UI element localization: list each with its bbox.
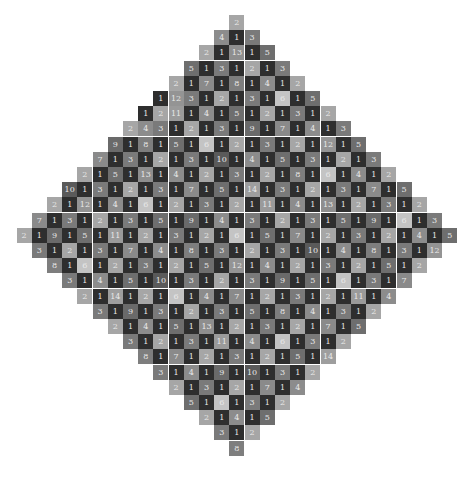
grid-cell[interactable]: 1	[245, 380, 260, 395]
grid-cell[interactable]: 1	[214, 76, 229, 91]
grid-cell[interactable]: 2	[138, 228, 153, 243]
grid-cell[interactable]: 4	[214, 213, 229, 228]
grid-cell[interactable]: 1	[321, 334, 336, 349]
grid-cell[interactable]: 1	[138, 304, 153, 319]
grid-cell[interactable]: 5	[123, 273, 138, 288]
grid-cell[interactable]: 2	[275, 395, 290, 410]
grid-cell[interactable]: 3	[397, 243, 412, 258]
grid-cell[interactable]: 13	[321, 197, 336, 212]
grid-cell[interactable]: 1	[275, 228, 290, 243]
grid-cell[interactable]: 1	[138, 273, 153, 288]
grid-cell[interactable]: 1	[77, 243, 92, 258]
grid-cell[interactable]: 1	[184, 349, 199, 364]
grid-cell[interactable]: 1	[245, 167, 260, 182]
grid-cell[interactable]: 3	[305, 213, 320, 228]
grid-cell[interactable]: 2	[62, 243, 77, 258]
grid-cell[interactable]: 2	[336, 152, 351, 167]
grid-cell[interactable]: 4	[305, 304, 320, 319]
grid-cell[interactable]: 5	[397, 182, 412, 197]
grid-cell[interactable]: 2	[184, 121, 199, 136]
grid-cell[interactable]: 1	[245, 45, 260, 60]
grid-cell[interactable]: 8	[229, 441, 244, 456]
grid-cell[interactable]: 1	[123, 167, 138, 182]
grid-cell[interactable]: 1	[229, 152, 244, 167]
grid-cell[interactable]: 2	[108, 258, 123, 273]
grid-cell[interactable]: 4	[245, 334, 260, 349]
grid-cell[interactable]: 2	[47, 197, 62, 212]
grid-cell[interactable]: 8	[184, 243, 199, 258]
grid-cell[interactable]: 1	[214, 106, 229, 121]
grid-cell[interactable]: 3	[62, 213, 77, 228]
grid-cell[interactable]: 1	[290, 365, 305, 380]
grid-cell[interactable]: 1	[245, 349, 260, 364]
grid-cell[interactable]: 2	[351, 197, 366, 212]
grid-cell[interactable]: 6	[214, 395, 229, 410]
grid-cell[interactable]: 3	[93, 182, 108, 197]
grid-cell[interactable]: 7	[366, 182, 381, 197]
grid-cell[interactable]: 1	[153, 258, 168, 273]
grid-cell[interactable]: 5	[184, 61, 199, 76]
grid-cell[interactable]: 1	[77, 182, 92, 197]
grid-cell[interactable]: 3	[427, 213, 442, 228]
grid-cell[interactable]: 3	[184, 273, 199, 288]
grid-cell[interactable]: 4	[184, 365, 199, 380]
grid-cell[interactable]: 6	[321, 167, 336, 182]
grid-cell[interactable]: 4	[169, 167, 184, 182]
grid-cell[interactable]: 3	[275, 61, 290, 76]
grid-cell[interactable]: 1	[62, 258, 77, 273]
grid-cell[interactable]: 1	[93, 228, 108, 243]
grid-cell[interactable]: 1	[229, 91, 244, 106]
grid-cell[interactable]: 3	[245, 273, 260, 288]
grid-cell[interactable]: 1	[275, 319, 290, 334]
grid-cell[interactable]: 1	[275, 258, 290, 273]
grid-cell[interactable]: 1	[321, 243, 336, 258]
grid-cell[interactable]: 1	[290, 334, 305, 349]
grid-cell[interactable]: 1	[229, 243, 244, 258]
grid-cell[interactable]: 1	[138, 182, 153, 197]
grid-cell[interactable]: 4	[199, 106, 214, 121]
grid-cell[interactable]: 1	[229, 121, 244, 136]
grid-cell[interactable]: 4	[108, 197, 123, 212]
grid-cell[interactable]: 5	[442, 228, 457, 243]
grid-cell[interactable]: 3	[123, 152, 138, 167]
grid-cell[interactable]: 2	[290, 258, 305, 273]
grid-cell[interactable]: 3	[153, 304, 168, 319]
grid-cell[interactable]: 1	[336, 228, 351, 243]
grid-cell[interactable]: 5	[214, 182, 229, 197]
grid-cell[interactable]: 3	[290, 106, 305, 121]
grid-cell[interactable]: 1	[108, 243, 123, 258]
grid-cell[interactable]: 1	[290, 243, 305, 258]
grid-cell[interactable]: 5	[305, 91, 320, 106]
grid-cell[interactable]: 1	[381, 273, 396, 288]
grid-cell[interactable]: 1	[351, 243, 366, 258]
grid-cell[interactable]: 1	[199, 152, 214, 167]
grid-cell[interactable]: 5	[77, 228, 92, 243]
grid-cell[interactable]: 2	[199, 410, 214, 425]
grid-cell[interactable]: 3	[214, 61, 229, 76]
grid-cell[interactable]: 4	[351, 167, 366, 182]
grid-cell[interactable]: 1	[321, 121, 336, 136]
grid-cell[interactable]: 3	[336, 182, 351, 197]
grid-cell[interactable]: 2	[77, 167, 92, 182]
grid-cell[interactable]: 1	[199, 182, 214, 197]
grid-cell[interactable]: 3	[366, 152, 381, 167]
grid-cell[interactable]: 1	[245, 410, 260, 425]
grid-cell[interactable]: 6	[169, 289, 184, 304]
grid-cell[interactable]: 2	[290, 76, 305, 91]
grid-cell[interactable]: 1	[153, 289, 168, 304]
grid-cell[interactable]: 1	[305, 197, 320, 212]
grid-cell[interactable]: 1	[275, 197, 290, 212]
grid-cell[interactable]: 4	[305, 121, 320, 136]
grid-cell[interactable]: 2	[351, 258, 366, 273]
grid-cell[interactable]: 1	[199, 395, 214, 410]
grid-cell[interactable]: 1	[245, 319, 260, 334]
grid-cell[interactable]: 3	[214, 304, 229, 319]
grid-cell[interactable]: 1	[169, 182, 184, 197]
grid-cell[interactable]: 1	[321, 213, 336, 228]
grid-cell[interactable]: 1	[245, 76, 260, 91]
grid-cell[interactable]: 1	[275, 289, 290, 304]
grid-cell[interactable]: 1	[366, 228, 381, 243]
grid-cell[interactable]: 1	[336, 319, 351, 334]
grid-cell[interactable]: 7	[199, 76, 214, 91]
grid-cell[interactable]: 1	[214, 349, 229, 364]
